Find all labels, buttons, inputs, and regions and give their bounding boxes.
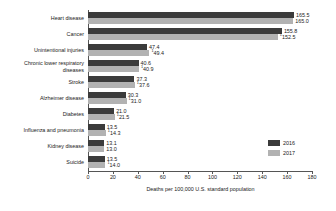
bar-2016 [88, 92, 126, 98]
x-axis-ticks: 020406080100120140160180 [88, 171, 313, 185]
bar-value-label: 13.1 [104, 140, 117, 146]
bar-row: Cancer155.81152.5 [88, 26, 312, 42]
bar-2016 [88, 156, 105, 162]
bar-2017 [88, 34, 278, 40]
bar-2017 [88, 18, 293, 24]
footnote-marker: 1 [151, 50, 153, 54]
footnote-marker: 1 [141, 66, 143, 70]
category-label: Kidney disease [0, 143, 84, 149]
bar-value-label: 140.9 [139, 66, 154, 72]
bar-2017 [88, 146, 104, 152]
x-tick-label: 20 [110, 174, 116, 180]
legend-item[interactable]: 2017 [268, 149, 328, 157]
footnote-marker: 1 [280, 34, 282, 38]
footnote-marker: 1 [107, 162, 109, 166]
bar-row: Unintentional injuries47.4149.4 [88, 42, 312, 58]
bar-2016 [88, 124, 105, 130]
category-label: Alzheimer disease [0, 95, 84, 101]
bar-value-label: 165.5 [294, 12, 310, 18]
bar-2017 [88, 50, 149, 56]
chart-legend: 20162017 [268, 139, 328, 159]
x-tick-label: 140 [258, 174, 267, 180]
bar-2017 [88, 82, 135, 88]
bar-value-label: 131.0 [127, 98, 142, 104]
x-tick-label: 120 [233, 174, 242, 180]
bar-value-label: 13.0 [104, 146, 117, 152]
category-label: Unintentional injuries [0, 47, 84, 53]
bar-chart: Heart disease165.5165.0Cancer155.81152.5… [0, 0, 336, 211]
footnote-marker: 1 [137, 82, 139, 86]
x-tick-label: 160 [283, 174, 292, 180]
bar-value-label: 165.0 [293, 18, 309, 24]
legend-swatch-icon [268, 150, 280, 156]
category-label: Cancer [0, 31, 84, 37]
legend-swatch-icon [268, 140, 280, 146]
bar-2016 [88, 108, 114, 114]
bar-value-label: 121.5 [115, 114, 130, 120]
category-label: Suicide [0, 159, 84, 165]
bar-2017 [88, 162, 105, 168]
x-tick-label: 60 [160, 174, 166, 180]
bar-2016 [88, 28, 282, 34]
bar-2017 [88, 98, 127, 104]
bar-2016 [88, 76, 134, 82]
bar-value-label: 114.3 [106, 130, 121, 136]
x-tick-label: 0 [87, 174, 90, 180]
bar-2017 [88, 130, 106, 136]
bar-2017 [88, 114, 115, 120]
x-axis-title: Deaths per 100,000 U.S. standard populat… [88, 186, 313, 192]
bar-2016 [88, 140, 104, 146]
bar-value-label: 13.5 [105, 124, 118, 130]
bar-value-label: 137.6 [135, 82, 150, 88]
bar-2016 [88, 44, 147, 50]
bar-value-label: 155.8 [282, 28, 298, 34]
legend-label: 2016 [283, 140, 295, 146]
footnote-marker: 1 [129, 98, 131, 102]
bar-row: Chronic lower respiratory diseases40.614… [88, 58, 312, 74]
footnote-marker: 1 [117, 114, 119, 118]
bar-value-label: 1152.5 [278, 34, 296, 40]
legend-item[interactable]: 2016 [268, 139, 328, 147]
bar-row: Diabetes21.0121.5 [88, 106, 312, 122]
category-label: Diabetes [0, 111, 84, 117]
footnote-marker: 1 [108, 130, 110, 134]
x-tick-label: 80 [185, 174, 191, 180]
category-label: Chronic lower respiratory diseases [0, 60, 84, 72]
bar-row: Alzheimer disease30.3131.0 [88, 90, 312, 106]
bar-row: Stroke37.3137.6 [88, 74, 312, 90]
category-label: Influenza and pneumonia [0, 127, 84, 133]
bar-value-label: 114.0 [105, 162, 120, 168]
category-label: Heart disease [0, 15, 84, 21]
x-tick-label: 100 [208, 174, 217, 180]
bar-row: Heart disease165.5165.0 [88, 10, 312, 26]
bar-row: Influenza and pneumonia13.5114.3 [88, 122, 312, 138]
bar-2017 [88, 66, 139, 72]
category-label: Stroke [0, 79, 84, 85]
bar-2016 [88, 60, 139, 66]
legend-label: 2017 [283, 150, 295, 156]
bar-2016 [88, 12, 294, 18]
x-tick-label: 180 [308, 174, 317, 180]
x-tick-label: 40 [135, 174, 141, 180]
bar-value-label: 149.4 [149, 50, 164, 56]
